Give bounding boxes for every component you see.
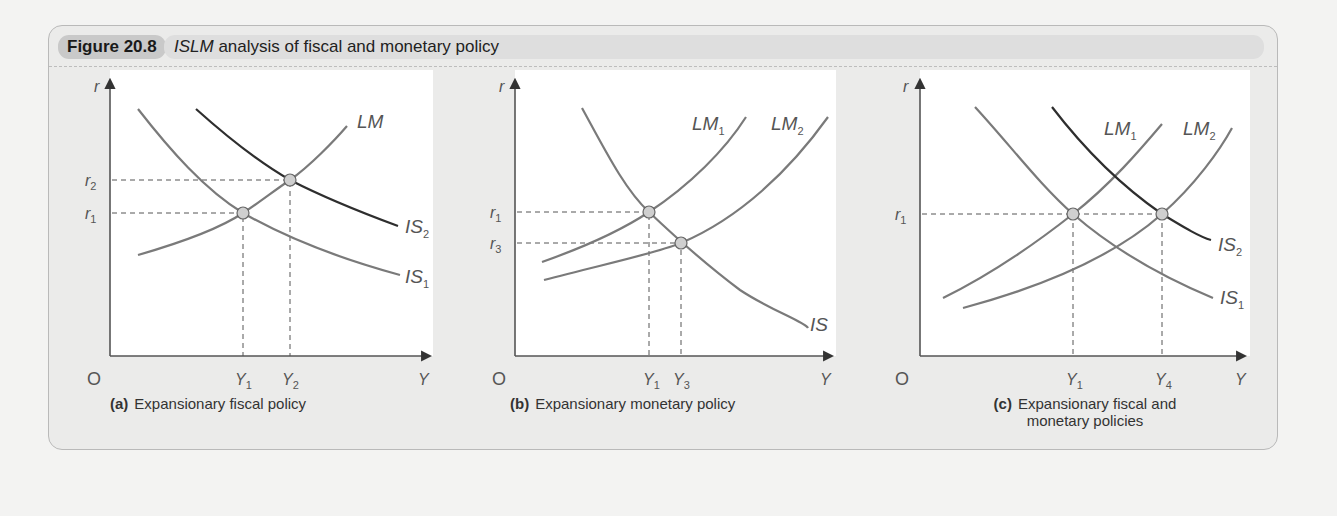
panel-b: r Y O LM1 LM2 IS r1 r3 Y1 Y3 [490,70,836,391]
tick-r1: r1 [895,206,906,226]
tick-y3: Y3 [673,371,690,391]
y-axis-label: r [499,78,505,95]
panel-c: r Y O LM1 LM2 IS2 IS1 r1 Y1 Y4 [895,70,1250,391]
tick-y4: Y4 [1155,371,1172,391]
caption-letter: (a) [110,395,128,412]
tick-r1: r1 [85,205,96,225]
y-axis-label: r [903,78,909,95]
caption-b: (b)Expansionary monetary policy [510,395,810,412]
tick-y1: Y1 [1066,371,1083,391]
caption-letter: (b) [510,395,529,412]
islm-diagrams: .plot { fill:#ffffff; } .ax { stroke:#55… [0,0,1337,516]
equilibrium-point-1 [1067,208,1079,220]
equilibrium-point-3 [675,237,687,249]
origin-label: O [87,369,101,389]
tick-y1: Y1 [643,371,660,391]
lm-label: LM [357,111,384,132]
origin-label: O [492,369,506,389]
tick-r3: r3 [490,235,501,255]
tick-y2: Y2 [282,371,299,391]
origin-label: O [895,369,909,389]
caption-text: Expansionary fiscal policy [134,395,306,412]
caption-a: (a)Expansionary fiscal policy [110,395,360,412]
tick-r1: r1 [490,204,501,224]
equilibrium-point-1 [237,207,249,219]
tick-y1: Y1 [235,371,252,391]
x-axis-label: Y [418,371,430,388]
equilibrium-point-1 [643,206,655,218]
caption-letter: (c) [994,395,1012,412]
caption-text-line2: monetary policies [1027,412,1144,429]
is-label: IS [810,314,828,335]
x-axis-label: Y [1235,371,1247,388]
caption-c: (c)Expansionary fiscal andmonetary polic… [955,395,1215,429]
plot-area-c [920,70,1250,356]
panel-a: r Y O LM IS2 IS1 r2 r1 Y1 Y2 [85,70,433,391]
equilibrium-point-2 [284,174,296,186]
x-axis-label: Y [820,371,832,388]
y-axis-label: r [94,78,100,95]
caption-text: Expansionary fiscal and [1018,395,1176,412]
tick-r2: r2 [85,172,96,192]
equilibrium-point-4 [1156,208,1168,220]
caption-text: Expansionary monetary policy [535,395,735,412]
